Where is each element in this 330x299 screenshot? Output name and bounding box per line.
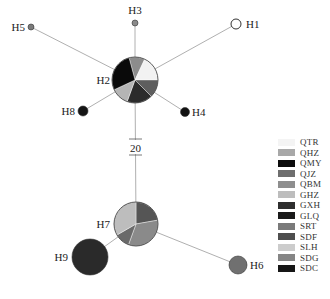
- legend-label: GXH: [300, 200, 320, 210]
- legend-label: SLH: [300, 242, 318, 252]
- legend-label: GLQ: [300, 211, 319, 221]
- haplotype-node-h2: [112, 57, 158, 103]
- legend-swatch: [278, 149, 295, 156]
- legend-label: QJZ: [300, 169, 316, 179]
- legend-swatch: [278, 181, 295, 188]
- legend-label: QMY: [300, 158, 322, 168]
- legend-swatch: [278, 139, 295, 146]
- legend-item-slh: SLH: [278, 242, 322, 253]
- haplotype-label-h4: H4: [192, 106, 206, 118]
- legend-label: QTR: [300, 137, 319, 147]
- legend-swatch: [278, 160, 295, 167]
- haplotype-node-h6: [229, 256, 247, 274]
- legend-swatch: [278, 233, 295, 240]
- legend-item-sdc: SDC: [278, 263, 322, 274]
- haplotype-node-h1: [231, 19, 241, 29]
- legend-item-qtr: QTR: [278, 137, 322, 148]
- legend-label: SRT: [300, 221, 317, 231]
- haplotype-node-h4: [181, 108, 190, 117]
- legend-label: SDC: [300, 263, 318, 273]
- haplotype-label-h3: H3: [128, 4, 142, 16]
- legend: QTRQHZQMYQJZQBMGHZGXHGLQSRTSDFSLHSDGSDC: [278, 137, 322, 274]
- legend-item-sdg: SDG: [278, 253, 322, 264]
- legend-swatch: [278, 170, 295, 177]
- legend-item-qjz: QJZ: [278, 169, 322, 180]
- legend-label: SDG: [300, 253, 319, 263]
- legend-item-qbm: QBM: [278, 179, 322, 190]
- legend-swatch: [278, 212, 295, 219]
- legend-label: QHZ: [300, 148, 319, 158]
- legend-item-ghz: GHZ: [278, 190, 322, 201]
- haplotype-node-h5: [28, 24, 34, 30]
- haplotype-node-h7: [114, 202, 158, 246]
- legend-item-glq: GLQ: [278, 211, 322, 222]
- haplotype-label-h2: H2: [97, 74, 110, 86]
- legend-label: SDF: [300, 232, 317, 242]
- legend-swatch: [278, 265, 295, 272]
- haplotype-label-h9: H9: [55, 251, 69, 263]
- legend-item-sdf: SDF: [278, 232, 322, 243]
- legend-item-qmy: QMY: [278, 158, 322, 169]
- haplotype-label-h1: H1: [246, 18, 259, 30]
- haplotype-label-h5: H5: [12, 21, 26, 33]
- legend-item-qhz: QHZ: [278, 148, 322, 159]
- haplotype-label-h7: H7: [97, 218, 111, 230]
- legend-label: GHZ: [300, 190, 319, 200]
- legend-label: QBM: [300, 179, 321, 189]
- haplotype-label-h6: H6: [250, 259, 264, 271]
- mutation-marker: 20: [128, 139, 143, 155]
- haplotype-label-h8: H8: [62, 105, 76, 117]
- legend-item-srt: SRT: [278, 221, 322, 232]
- legend-swatch: [278, 202, 295, 209]
- legend-swatch: [278, 223, 295, 230]
- haplotype-node-h8: [78, 106, 88, 116]
- legend-swatch: [278, 191, 295, 198]
- haplotype-node-h9: [72, 239, 108, 275]
- legend-swatch: [278, 244, 295, 251]
- haplotype-node-h3: [132, 20, 138, 26]
- mutation-count-label: 20: [130, 142, 142, 154]
- legend-swatch: [278, 254, 295, 261]
- legend-item-gxh: GXH: [278, 200, 322, 211]
